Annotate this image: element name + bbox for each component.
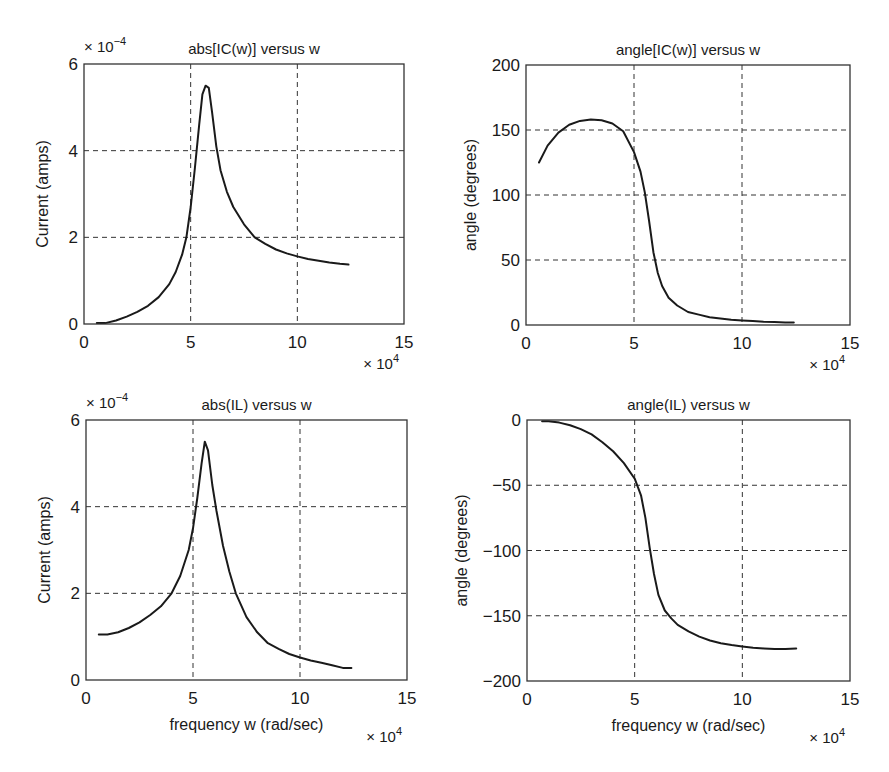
x-axis-label: frequency w (rad/sec) — [612, 717, 766, 734]
y-tick-label: 4 — [71, 498, 80, 517]
y-axis-multiplier: × 10−4 — [86, 391, 128, 411]
x-tick-label: 0 — [81, 689, 90, 708]
axes-frame — [86, 420, 407, 680]
y-axis-label: angle (degrees) — [453, 494, 470, 606]
y-tick-label: 2 — [69, 228, 78, 247]
y-axis-label: angle (degrees) — [462, 139, 479, 251]
x-tick-label: 10 — [733, 334, 752, 353]
y-tick-label: 6 — [69, 55, 78, 74]
chart-title: angle(IL) versus w — [627, 396, 750, 413]
y-tick-label: 150 — [492, 121, 520, 140]
x-tick-label: 5 — [188, 689, 197, 708]
y-tick-label: 6 — [71, 411, 80, 430]
y-tick-label: −50 — [492, 476, 521, 495]
axes-frame — [84, 64, 404, 324]
x-tick-label: 0 — [521, 334, 530, 353]
x-tick-label: 5 — [629, 334, 638, 353]
y-tick-label: 200 — [492, 56, 520, 75]
chart-title: abs(IL) versus w — [201, 396, 311, 413]
x-tick-label: 10 — [288, 333, 307, 352]
subplot-angle-il: 051015−200−150−100−500angle(IL) versus w… — [453, 396, 859, 746]
x-tick-label: 15 — [841, 334, 860, 353]
y-axis-label: Current (amps) — [36, 496, 53, 604]
y-tick-label: −100 — [483, 542, 521, 561]
subplot-angle-ic: 051015050100150200angle[IC(w)] versus wa… — [462, 41, 859, 373]
x-tick-label: 0 — [522, 690, 531, 709]
data-line — [539, 120, 794, 323]
y-tick-label: 2 — [71, 584, 80, 603]
y-axis-multiplier: × 10−4 — [84, 35, 126, 55]
grid-lines — [84, 64, 404, 324]
x-axis-multiplier: × 104 — [809, 353, 845, 373]
data-line — [542, 421, 796, 649]
y-tick-label: 0 — [71, 671, 80, 690]
y-tick-label: 50 — [501, 251, 520, 270]
x-axis-multiplier: × 104 — [366, 725, 402, 745]
x-tick-label: 5 — [186, 333, 195, 352]
grid-lines — [527, 420, 850, 681]
grid-lines — [86, 420, 407, 680]
y-tick-label: −200 — [483, 672, 521, 691]
x-axis-multiplier: × 104 — [809, 726, 845, 746]
y-tick-label: 100 — [492, 186, 520, 205]
y-tick-label: 4 — [69, 142, 78, 161]
subplot-abs-il: 0510150246abs(IL) versus wCurrent (amps)… — [36, 391, 416, 745]
x-tick-label: 15 — [398, 689, 417, 708]
y-axis-label: Current (amps) — [34, 140, 51, 248]
y-tick-label: 0 — [69, 315, 78, 334]
x-tick-label: 10 — [733, 690, 752, 709]
figure-canvas: 0510150246abs[IC(w)] versus wCurrent (am… — [0, 0, 889, 772]
y-tick-label: 0 — [511, 316, 520, 335]
data-line — [97, 86, 349, 323]
data-line — [99, 442, 352, 668]
chart-title: abs[IC(w)] versus w — [188, 40, 320, 57]
x-tick-label: 10 — [291, 689, 310, 708]
grid-lines — [526, 65, 850, 325]
x-tick-label: 5 — [630, 690, 639, 709]
subplot-abs-ic: 0510150246abs[IC(w)] versus wCurrent (am… — [34, 35, 413, 372]
y-tick-label: −150 — [483, 607, 521, 626]
y-tick-label: 0 — [512, 411, 521, 430]
chart-title: angle[IC(w)] versus w — [616, 41, 760, 58]
x-tick-label: 15 — [395, 333, 414, 352]
x-axis-multiplier: × 104 — [363, 352, 399, 372]
x-tick-label: 15 — [841, 690, 860, 709]
x-tick-label: 0 — [79, 333, 88, 352]
x-axis-label: frequency w (rad/sec) — [170, 716, 324, 733]
